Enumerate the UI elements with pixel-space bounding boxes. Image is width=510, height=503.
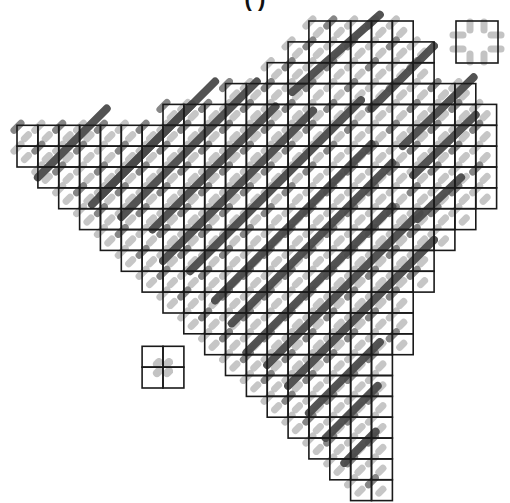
dot-mark — [462, 218, 466, 222]
dot-mark — [358, 260, 362, 264]
dot-mark — [337, 406, 341, 410]
dot-mark — [129, 218, 133, 222]
dot-mark — [24, 156, 28, 160]
dot-mark — [170, 218, 174, 222]
dot-mark — [337, 239, 341, 243]
dot-mark — [254, 322, 258, 326]
dot-mark — [441, 93, 445, 97]
dot-mark — [254, 93, 258, 97]
dot-mark — [254, 114, 258, 118]
dot-mark — [170, 281, 174, 285]
dot-mark — [170, 197, 174, 201]
dot-mark — [275, 72, 279, 76]
dot-mark — [295, 427, 299, 431]
dot-mark — [295, 406, 299, 410]
dot-mark — [337, 281, 341, 285]
dot-mark — [462, 197, 466, 201]
dot-mark — [400, 343, 404, 347]
dot-mark — [275, 218, 279, 222]
dot-mark — [150, 197, 154, 201]
dot-mark — [462, 93, 466, 97]
dot-mark — [170, 301, 174, 305]
dot-mark — [358, 176, 362, 180]
dot-mark — [379, 30, 383, 34]
dot-mark — [379, 301, 383, 305]
dot-mark — [379, 51, 383, 55]
dot-mark — [379, 72, 383, 76]
dot-mark — [483, 114, 487, 118]
dot-mark — [441, 156, 445, 160]
dot-mark — [212, 135, 216, 139]
dot-mark — [275, 135, 279, 139]
dot-mark — [233, 364, 237, 368]
dot-mark — [462, 135, 466, 139]
dot-mark — [316, 114, 320, 118]
dot-mark — [379, 114, 383, 118]
dot-mark — [191, 197, 195, 201]
dot-mark — [254, 156, 258, 160]
dot-mark — [483, 156, 487, 160]
dot-mark — [316, 260, 320, 264]
dot-mark — [337, 156, 341, 160]
dot-mark — [275, 156, 279, 160]
dot-mark — [337, 301, 341, 305]
dot-mark — [295, 281, 299, 285]
dot-mark — [316, 156, 320, 160]
dot-mark — [191, 176, 195, 180]
dot-mark — [421, 281, 425, 285]
dot-mark — [358, 489, 362, 493]
dot-mark — [275, 260, 279, 264]
dot-mark — [316, 218, 320, 222]
dot-mark — [400, 176, 404, 180]
dot-mark — [337, 447, 341, 451]
dot-mark — [358, 322, 362, 326]
dot-mark — [400, 301, 404, 305]
dot-mark — [233, 239, 237, 243]
dot-mark — [233, 114, 237, 118]
dot-mark — [316, 447, 320, 451]
dot-mark — [295, 51, 299, 55]
dot-mark — [295, 176, 299, 180]
dot-mark — [358, 343, 362, 347]
dot-mark — [254, 218, 258, 222]
dot-mark — [87, 218, 91, 222]
dot-mark — [254, 385, 258, 389]
dot-mark — [400, 197, 404, 201]
dot-mark — [379, 468, 383, 472]
dot-mark — [233, 197, 237, 201]
dot-mark — [358, 468, 362, 472]
dot-mark — [191, 301, 195, 305]
dot-mark — [66, 197, 70, 201]
dot-mark — [421, 197, 425, 201]
dot-mark — [400, 51, 404, 55]
dot-mark — [295, 239, 299, 243]
dot-mark — [275, 114, 279, 118]
dot-mark — [275, 385, 279, 389]
dot-mark — [108, 156, 112, 160]
dot-mark — [358, 281, 362, 285]
dot-mark — [337, 72, 341, 76]
dot-mark — [275, 406, 279, 410]
dot-mark — [66, 156, 70, 160]
dot-mark — [191, 114, 195, 118]
dot-mark — [254, 239, 258, 243]
dot-mark — [129, 239, 133, 243]
dot-mark — [295, 114, 299, 118]
dot-mark — [358, 218, 362, 222]
dot-mark — [421, 156, 425, 160]
dot-mark — [275, 93, 279, 97]
dot-mark — [421, 114, 425, 118]
dot-mark — [400, 135, 404, 139]
dot-mark — [254, 281, 258, 285]
dot-mark — [275, 343, 279, 347]
dot-mark — [379, 364, 383, 368]
grid-diagram — [0, 0, 510, 503]
dot-mark — [129, 260, 133, 264]
dot-mark — [337, 468, 341, 472]
dot-mark — [170, 135, 174, 139]
dot-mark — [358, 51, 362, 55]
dot-mark — [45, 176, 49, 180]
dot-mark — [421, 135, 425, 139]
dot-mark — [233, 260, 237, 264]
dot-mark — [379, 322, 383, 326]
